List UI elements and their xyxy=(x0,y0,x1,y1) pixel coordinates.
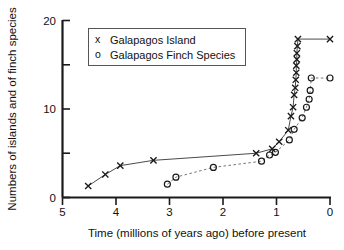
data-point-marker xyxy=(286,137,292,143)
legend-symbol-x: x xyxy=(95,33,101,45)
series-finch xyxy=(164,75,333,187)
legend-label-finch: Galapagos Finch Species xyxy=(110,49,236,61)
x-tick-label-4: 4 xyxy=(113,206,120,218)
data-point-marker xyxy=(272,149,278,155)
y-axis-ticks xyxy=(63,21,71,198)
x-tick-label-2: 2 xyxy=(220,206,226,218)
data-point-marker xyxy=(299,115,305,121)
x-tick-label-1: 1 xyxy=(273,206,279,218)
data-point-marker xyxy=(102,171,108,177)
x-axis-tick-labels: 5 4 3 2 1 0 xyxy=(59,206,333,218)
x-axis-ticks xyxy=(63,198,331,206)
chart-figure: 20 10 0 5 4 3 2 1 0 Time (millions of ye… xyxy=(0,0,344,250)
x-tick-label-0: 0 xyxy=(327,206,333,218)
legend: x Galapagos Island o Galapagos Finch Spe… xyxy=(89,29,246,66)
legend-label-island: Galapagos Island xyxy=(110,34,196,46)
x-axis-title: Time (millions of years ago) before pres… xyxy=(88,227,307,239)
data-point-marker xyxy=(276,139,282,145)
x-tick-label-5: 5 xyxy=(59,206,65,218)
x-tick-label-3: 3 xyxy=(166,206,172,218)
scatter-plot: 20 10 0 5 4 3 2 1 0 Time (millions of ye… xyxy=(0,0,344,250)
y-tick-label-20: 20 xyxy=(43,15,56,27)
y-axis-title: Numbers of islands and of finch species xyxy=(6,7,18,211)
legend-symbol-o: o xyxy=(95,48,101,60)
y-axis-tick-labels: 20 10 0 xyxy=(43,15,56,204)
data-point-marker xyxy=(267,152,273,158)
y-tick-label-10: 10 xyxy=(43,103,56,115)
data-point-marker xyxy=(85,183,91,189)
y-tick-label-0: 0 xyxy=(50,192,56,204)
series-line xyxy=(167,78,330,184)
